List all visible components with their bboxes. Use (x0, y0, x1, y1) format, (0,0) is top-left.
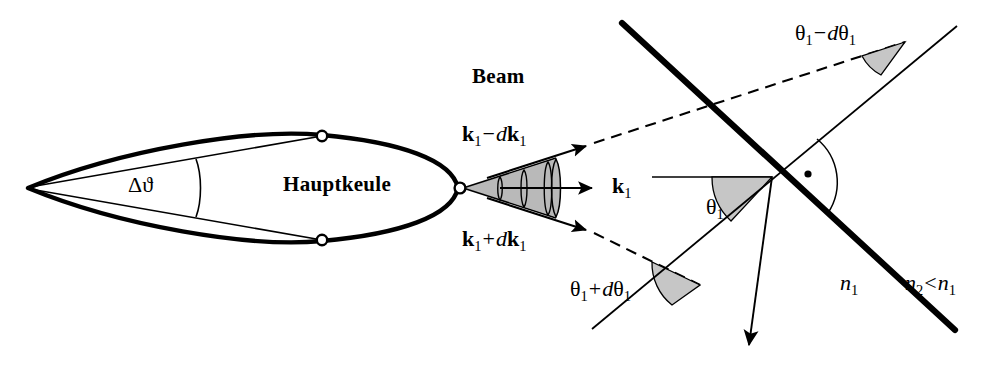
k1-label: k1 (612, 175, 632, 200)
k1-plus-operator: + (482, 226, 496, 251)
k1-k-symbol: k (612, 173, 624, 198)
theta1-plus-operator: + (588, 276, 602, 301)
beam-source-marker (455, 183, 466, 194)
k1-minus-sub1: 1 (474, 133, 481, 149)
theta1-plus-sub2: 1 (624, 288, 631, 304)
n2-n-symbol: n (905, 270, 916, 295)
theta1-minus-d-symbol: d (827, 20, 838, 45)
lobe-lower-node-marker (317, 235, 327, 245)
theta1-theta-symbol: θ (706, 194, 717, 219)
ray-k1-minus-dashed (594, 42, 905, 143)
k1-minus-sub2: 1 (519, 133, 526, 149)
n1-n-symbol: n (840, 270, 851, 295)
n2-lt-operator: < (923, 270, 937, 295)
k1-minus-k2-symbol: k (507, 121, 519, 146)
k1-minus-dk1-label: k1−dk1 (462, 123, 526, 148)
theta1-plus-wedge (652, 262, 700, 305)
theta1-minus-wedge (862, 42, 905, 75)
theta1-label: θ1 (706, 196, 724, 221)
k1-plus-k2-symbol: k (507, 226, 519, 251)
n1-sub1: 1 (851, 282, 858, 298)
k1-plus-sub1: 1 (474, 238, 481, 254)
refraction-beam-diagram: Δϑ Hauptkeule Beam k1−dk1 k1 k1+dk1 θ1−d… (0, 0, 994, 372)
k1-minus-d-symbol: d (496, 121, 507, 146)
theta1-minus-operator: − (813, 20, 827, 45)
lobe-upper-node-marker (317, 131, 327, 141)
theta1-plus-sub1: 1 (581, 288, 588, 304)
theta1-minus-theta2-symbol: θ (838, 20, 849, 45)
k1-plus-dk1-label: k1+dk1 (462, 228, 526, 253)
delta-theta-text: Δϑ (128, 172, 153, 197)
interface-group (592, 23, 957, 345)
k1-plus-k-symbol: k (462, 226, 474, 251)
right-angle-dot-icon (804, 170, 811, 177)
beamwidth-arc (196, 159, 201, 217)
theta1-plus-theta2-symbol: θ (613, 276, 624, 301)
theta1-minus-sub2: 1 (849, 32, 856, 48)
theta1-minus-dtheta1-label: θ1−dθ1 (795, 22, 856, 47)
beam-label: Beam (472, 66, 525, 87)
beam-text: Beam (472, 64, 525, 88)
k1-minus-operator: − (482, 121, 496, 146)
n1-label: n1 (840, 272, 858, 297)
n2-n1-symbol: n (938, 270, 949, 295)
main-lobe-group (28, 131, 458, 245)
k1-plus-sub2: 1 (519, 238, 526, 254)
n2-n1-sub1: 1 (949, 282, 956, 298)
theta1-plus-d-symbol: d (602, 276, 613, 301)
k1-plus-d-symbol: d (496, 226, 507, 251)
theta1-minus-sub1: 1 (806, 32, 813, 48)
main-lobe-label: Hauptkeule (283, 174, 391, 195)
k1-minus-k-symbol: k (462, 121, 474, 146)
theta1-minus-theta-symbol: θ (795, 20, 806, 45)
refracted-ray (749, 177, 772, 345)
theta1-plus-dtheta1-label: θ1+dθ1 (570, 278, 631, 303)
main-lobe-text: Hauptkeule (283, 172, 391, 196)
theta1-sub1: 1 (717, 206, 724, 222)
k1-sub1: 1 (624, 185, 631, 201)
delta-theta-label: Δϑ (128, 174, 153, 196)
theta1-plus-theta-symbol: θ (570, 276, 581, 301)
n2-lt-n1-label: n2<n1 (905, 272, 956, 297)
